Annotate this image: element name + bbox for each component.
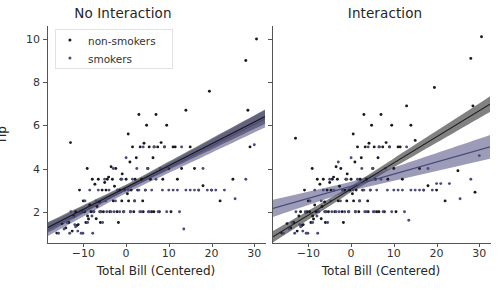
legend-marker-dot-icon bbox=[68, 56, 71, 59]
y-tick-label: 4 bbox=[18, 162, 40, 175]
x-tick-label: 30 bbox=[472, 247, 486, 260]
figure-canvas: No Interaction −100102030246810 Tip Tota… bbox=[0, 0, 501, 290]
x-axis-label-right: Total Bill (Centered) bbox=[322, 264, 440, 278]
plot-svg-right bbox=[272, 26, 490, 243]
y-tick-label: 6 bbox=[18, 119, 40, 132]
y-tick-label: 2 bbox=[18, 205, 40, 218]
y-tick bbox=[43, 125, 47, 126]
x-tick-label: 0 bbox=[123, 247, 130, 260]
y-tick-label: 10 bbox=[18, 33, 40, 46]
y-tick bbox=[43, 169, 47, 170]
legend-box[interactable]: non-smokers smokers bbox=[55, 29, 173, 69]
y-tick bbox=[268, 169, 272, 170]
x-tick-label: 10 bbox=[387, 247, 401, 260]
y-tick bbox=[268, 82, 272, 83]
x-tick-label: 0 bbox=[348, 247, 355, 260]
x-axis-spine-right bbox=[272, 243, 491, 244]
y-axis-spine-right bbox=[272, 26, 273, 244]
y-tick-label: 8 bbox=[18, 76, 40, 89]
y-tick bbox=[43, 39, 47, 40]
legend-marker-dot-icon bbox=[68, 38, 71, 41]
x-tick-label: 10 bbox=[162, 247, 176, 260]
y-tick bbox=[268, 212, 272, 213]
x-tick-label: 20 bbox=[205, 247, 219, 260]
plot-area-right bbox=[272, 26, 490, 243]
legend-label-smokers: smokers bbox=[88, 53, 132, 65]
y-tick bbox=[268, 125, 272, 126]
x-tick-label: −10 bbox=[72, 247, 95, 260]
panel-title-right: Interaction bbox=[247, 5, 501, 21]
y-axis-spine-left bbox=[47, 26, 48, 244]
legend-item-smokers[interactable]: smokers bbox=[56, 50, 172, 68]
x-tick-label: 20 bbox=[430, 247, 444, 260]
x-tick-label: −10 bbox=[297, 247, 320, 260]
y-tick bbox=[268, 39, 272, 40]
x-axis-label-left: Total Bill (Centered) bbox=[97, 264, 215, 278]
y-tick bbox=[43, 212, 47, 213]
legend-label-non-smokers: non-smokers bbox=[88, 35, 156, 47]
y-tick bbox=[43, 82, 47, 83]
legend-item-non-smokers[interactable]: non-smokers bbox=[56, 32, 172, 50]
y-axis-label-left: Tip bbox=[0, 126, 9, 144]
panel-title-left: No Interaction bbox=[0, 5, 256, 21]
